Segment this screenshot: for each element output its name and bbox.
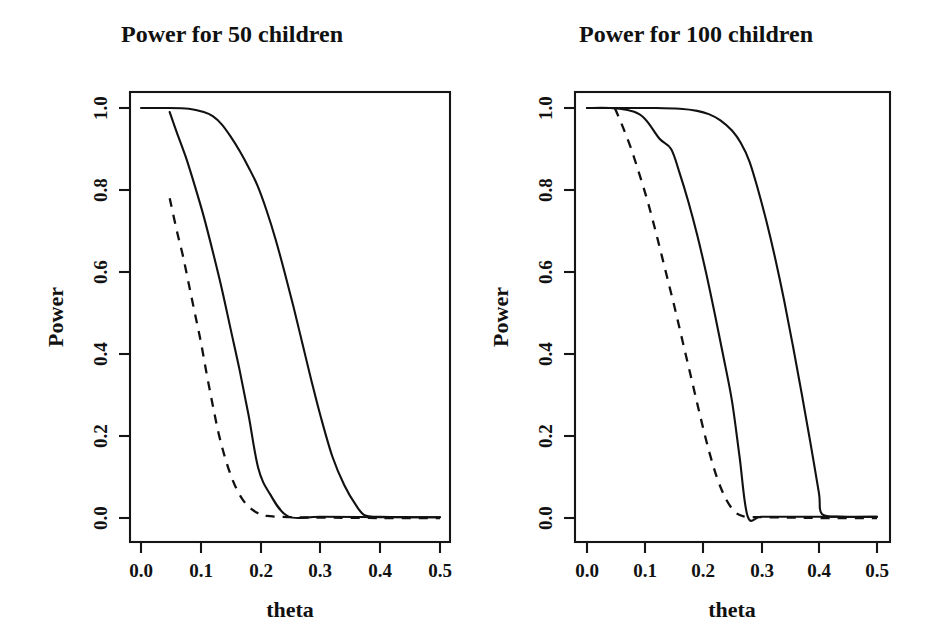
x-axis-title-right: theta [708,597,756,622]
y-tick-label: 0.8 [90,178,111,202]
power-curve-dashed [615,108,877,518]
y-tick-label: 0.0 [90,506,111,530]
y-tick-label: 1.0 [535,96,556,120]
x-tick-label: 0.5 [428,560,452,581]
power-curve-solid-inner [587,108,877,521]
x-tick-label: 0.0 [575,560,599,581]
panel-title-left: Power for 50 children [121,21,343,47]
x-axis-title-left: theta [266,597,314,622]
plot-svg-left: Power for 50 children 0.0 0.1 0.2 0.3 0.… [0,0,464,632]
power-curve-solid-inner [170,112,440,518]
x-tick-label: 0.0 [129,560,153,581]
curves-right [587,108,877,521]
panel-title-right: Power for 100 children [579,21,813,47]
y-tick-label: 0.4 [535,342,556,366]
y-tick-label: 0.8 [535,178,556,202]
x-axis-ticks-left [141,542,440,553]
y-tick-label: 1.0 [90,96,111,120]
y-tick-label: 0.6 [90,260,111,284]
x-tick-label: 0.1 [189,560,213,581]
x-tick-label: 0.2 [249,560,273,581]
x-tick-label: 0.1 [633,560,657,581]
x-tick-label: 0.3 [308,560,332,581]
power-curve-solid-outer [141,108,440,517]
y-axis-tick-labels-left: 0.0 0.2 0.4 0.6 0.8 1.0 [90,96,111,530]
power-curve-solid-outer [587,108,877,517]
y-axis-title-right: Power [488,287,513,347]
y-axis-ticks-right [564,108,575,518]
power-curve-dashed [170,198,440,518]
x-tick-label: 0.4 [368,560,392,581]
plot-frame-left [130,92,450,542]
plot-svg-right: Power for 100 children 0.0 0.1 0.2 0.3 0… [464,0,928,632]
x-tick-label: 0.5 [865,560,889,581]
y-tick-label: 0.2 [90,424,111,448]
curves-left [141,108,440,518]
x-tick-label: 0.4 [807,560,831,581]
x-tick-label: 0.3 [750,560,774,581]
x-tick-label: 0.2 [691,560,715,581]
x-axis-tick-labels-right: 0.0 0.1 0.2 0.3 0.4 0.5 [575,560,889,581]
y-tick-label: 0.4 [90,342,111,366]
chart-panel-50-children: Power for 50 children 0.0 0.1 0.2 0.3 0.… [0,0,464,632]
plot-frame-right [575,92,890,542]
y-tick-label: 0.6 [535,260,556,284]
y-tick-label: 0.0 [535,506,556,530]
y-axis-title-left: Power [43,287,68,347]
y-axis-ticks-left [119,108,130,518]
power-curves-figure: Power for 50 children 0.0 0.1 0.2 0.3 0.… [0,0,928,632]
chart-panel-100-children: Power for 100 children 0.0 0.1 0.2 0.3 0… [464,0,928,632]
y-tick-label: 0.2 [535,424,556,448]
x-axis-tick-labels-left: 0.0 0.1 0.2 0.3 0.4 0.5 [129,560,452,581]
x-axis-ticks-right [587,542,877,553]
y-axis-tick-labels-right: 0.0 0.2 0.4 0.6 0.8 1.0 [535,96,556,530]
